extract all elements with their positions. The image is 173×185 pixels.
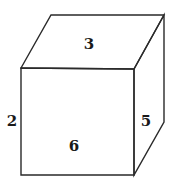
cube-right-face bbox=[134, 15, 164, 175]
cube-front-face bbox=[21, 68, 134, 175]
label-front-face: 6 bbox=[69, 137, 79, 155]
label-right-face: 5 bbox=[141, 112, 151, 130]
label-left-face: 2 bbox=[7, 112, 17, 130]
cube-diagram: 3 6 2 5 bbox=[0, 0, 173, 185]
label-top-face: 3 bbox=[84, 35, 94, 53]
